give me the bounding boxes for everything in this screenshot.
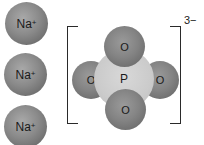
sodium-charge: + (32, 18, 37, 27)
sodium-ion-2: Na+ (4, 53, 47, 96)
oxygen-symbol: O (120, 41, 129, 53)
sodium-symbol: Na (16, 17, 31, 31)
oxygen-symbol: O (156, 74, 165, 86)
anion-charge: 3− (184, 14, 197, 26)
sodium-charge: + (31, 121, 36, 130)
phosphorus-symbol: P (120, 72, 128, 86)
sodium-symbol: Na (15, 68, 30, 82)
oxygen-atom-top: O (104, 26, 145, 67)
oxygen-atom-bottom: O (105, 89, 146, 130)
sodium-ion-1: Na+ (5, 2, 48, 45)
sodium-ion-3: Na+ (4, 105, 47, 145)
sodium-symbol: Na (15, 120, 30, 134)
sodium-charge: + (31, 69, 36, 78)
oxygen-symbol: O (121, 104, 130, 116)
